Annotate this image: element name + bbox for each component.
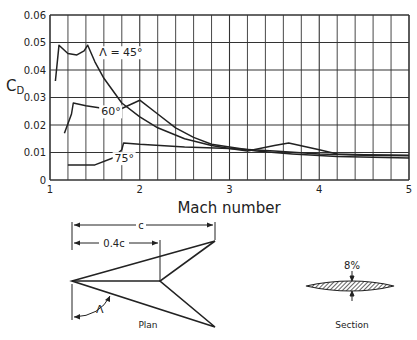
chord-label: c [138,220,144,231]
chart-tick-labels: 00.010.020.030.040.050.0612345 [24,10,412,196]
dimension-arrowheads [74,223,213,320]
x-tick-label: 4 [316,184,322,195]
x-tick-label: 5 [406,184,412,195]
series-label: 60° [101,105,121,118]
root-chord-label: 0.4c [103,238,124,249]
figure: 00.010.020.030.040.050.0612345 Λ = 45°60… [0,0,417,340]
x-tick-label: 1 [47,184,53,195]
x-tick-label: 2 [137,184,143,195]
sweep-angle-label: Λ [96,303,104,316]
y-tick-label: 0.02 [24,120,46,131]
y-tick-label: 0.01 [24,147,46,158]
airfoil-section [306,281,394,291]
y-tick-label: 0.06 [24,10,46,21]
plan-diagram [72,222,215,327]
series-label: 75° [115,152,134,165]
x-tick-label: 3 [226,184,232,195]
y-tick-label: 0 [40,175,46,186]
y-tick-label: 0.04 [24,65,46,76]
series-label: Λ = 45° [99,46,142,59]
y-tick-label: 0.05 [24,37,46,48]
plan-label: Plan [138,320,157,330]
series-line [55,45,409,156]
section-label: Section [335,320,368,330]
sweep-angle-arc [74,296,110,317]
delta-wing-outline [72,241,215,327]
y-tick-label: 0.03 [24,92,46,103]
thickness-label: 8% [344,260,360,271]
x-axis-label: Mach number [177,199,281,217]
y-axis-label: CD [6,77,24,96]
